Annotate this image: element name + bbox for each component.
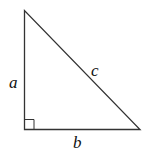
triangle	[25, 11, 141, 130]
right-triangle-diagram: a b c	[0, 0, 149, 161]
label-b: b	[73, 133, 82, 152]
label-c: c	[91, 61, 99, 80]
label-a: a	[9, 73, 18, 92]
right-angle-marker	[25, 120, 35, 130]
